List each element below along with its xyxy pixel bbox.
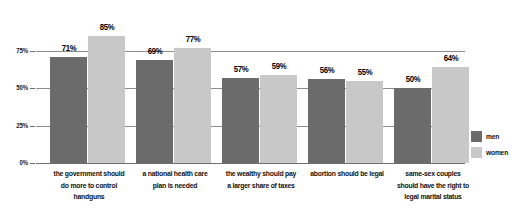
bar-value-men-5: 50% — [405, 74, 420, 84]
bar-men-5: 50% — [394, 88, 431, 163]
bar-women-5: 64% — [432, 67, 469, 163]
bar-men-2: 69% — [136, 60, 173, 164]
legend-label-men: men — [486, 132, 499, 141]
y-tick-mark-75 — [30, 51, 35, 52]
y-tick-label-25: 25% — [2, 122, 28, 129]
category-label-5-line-1: same-sex couples — [380, 168, 486, 180]
legend-swatch-men-icon — [471, 131, 482, 142]
bar-men-4: 56% — [308, 79, 345, 163]
axis-baseline — [36, 163, 465, 164]
category-label-5: same-sex couples should have the right t… — [380, 168, 486, 203]
grouped-bar-chart: 0% 25% 50% 75% 71% 85% 69% 77 — [0, 0, 518, 221]
bar-value-men-1: 71% — [61, 43, 76, 53]
bar-men-3: 57% — [222, 78, 259, 164]
bar-value-women-1: 85% — [99, 22, 114, 32]
category-label-5-line-3: legal marital status — [380, 191, 486, 203]
y-tick-mark-50 — [30, 88, 35, 89]
category-label-5-line-2: should have the right to — [380, 180, 486, 192]
category-label-1-line-3: handguns — [36, 191, 142, 203]
bar-value-women-5: 64% — [443, 53, 458, 63]
bar-value-women-3: 59% — [271, 61, 286, 71]
bar-women-4: 55% — [346, 81, 383, 164]
bar-value-women-2: 77% — [185, 34, 200, 44]
plot-area: 71% 85% 69% 77% 57% 59% — [36, 0, 465, 164]
y-tick-mark-0 — [30, 163, 35, 164]
bar-value-men-2: 69% — [147, 46, 162, 56]
bar-value-men-3: 57% — [233, 64, 248, 74]
y-tick-label-75: 75% — [2, 47, 28, 54]
legend-swatch-women-icon — [471, 147, 482, 158]
legend-label-women: women — [486, 148, 508, 157]
bar-value-women-4: 55% — [357, 67, 372, 77]
bar-women-1: 85% — [88, 36, 125, 164]
bar-men-1: 71% — [50, 57, 87, 164]
y-tick-label-50: 50% — [2, 84, 28, 91]
bar-women-2: 77% — [174, 48, 211, 164]
y-tick-label-0: 0% — [2, 159, 28, 166]
y-tick-mark-25 — [30, 126, 35, 127]
category-label-3-line-2: a larger share of taxes — [208, 180, 314, 192]
bar-women-3: 59% — [260, 75, 297, 164]
bar-value-men-4: 56% — [319, 65, 334, 75]
